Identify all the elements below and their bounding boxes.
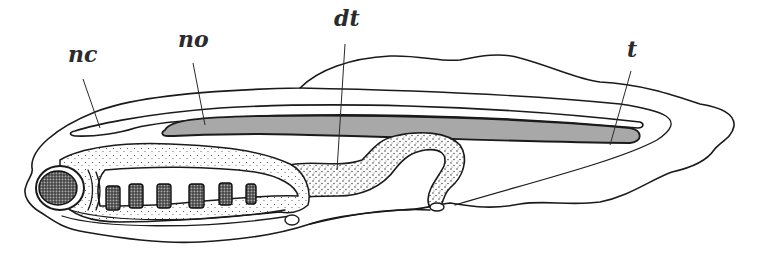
label-no: no	[178, 28, 209, 50]
gill-slit	[157, 184, 171, 208]
label-t: t	[627, 38, 637, 60]
larva-diagram	[0, 0, 770, 258]
label-dt: dt	[334, 7, 360, 29]
label-nc: nc	[68, 43, 97, 65]
gill-slit	[106, 186, 120, 210]
gill-slit	[189, 184, 204, 208]
gill-slit	[246, 184, 256, 204]
anus	[430, 203, 444, 211]
mouth-opening	[39, 171, 77, 205]
gill-slit	[129, 184, 143, 208]
club-gland	[285, 215, 299, 225]
gill-slit	[219, 183, 232, 205]
